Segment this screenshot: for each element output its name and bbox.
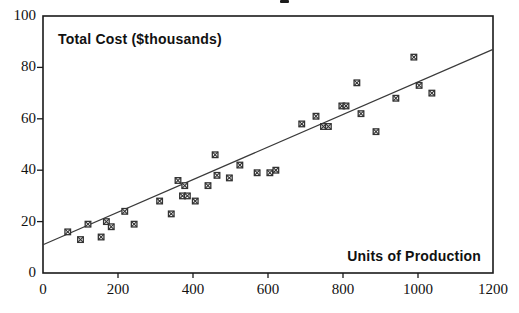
y-axis-tick-label: 100 bbox=[0, 8, 36, 23]
data-point-marker bbox=[267, 170, 273, 176]
data-point-marker bbox=[65, 229, 71, 235]
data-point-marker bbox=[393, 95, 399, 101]
data-point-marker bbox=[254, 170, 260, 176]
data-point-marker bbox=[192, 198, 198, 204]
data-point-marker bbox=[212, 152, 218, 158]
data-point-marker bbox=[108, 224, 114, 230]
y-axis-title: Total Cost ($thousands) bbox=[58, 31, 222, 47]
data-point-marker bbox=[122, 209, 128, 215]
data-point-marker bbox=[205, 183, 211, 189]
data-point-marker bbox=[175, 178, 181, 184]
data-point-marker bbox=[411, 54, 417, 60]
data-point-marker bbox=[185, 193, 191, 199]
data-point-marker bbox=[168, 211, 174, 217]
y-axis-tick-label: 60 bbox=[0, 111, 36, 126]
data-point-marker bbox=[85, 221, 91, 227]
data-point-marker bbox=[313, 113, 319, 119]
data-point-marker bbox=[429, 90, 435, 96]
data-point-marker bbox=[98, 234, 104, 240]
x-axis-tick-label: 0 bbox=[21, 282, 65, 297]
data-point-marker bbox=[373, 129, 379, 135]
data-point-marker bbox=[131, 221, 137, 227]
data-point-marker bbox=[416, 83, 422, 89]
y-axis-tick-label: 40 bbox=[0, 162, 36, 177]
x-axis-tick-label: 800 bbox=[321, 282, 365, 297]
x-axis-tick-label: 1200 bbox=[471, 282, 515, 297]
data-point-marker bbox=[326, 124, 332, 130]
x-axis-tick-label: 200 bbox=[96, 282, 140, 297]
data-point-marker bbox=[182, 183, 188, 189]
regression-line bbox=[43, 49, 493, 244]
data-point-marker bbox=[354, 80, 360, 86]
data-point-marker bbox=[237, 162, 243, 168]
data-point-marker bbox=[157, 198, 163, 204]
data-point-marker bbox=[343, 103, 349, 109]
data-point-marker bbox=[358, 111, 364, 117]
data-point-marker bbox=[227, 175, 233, 181]
data-point-marker bbox=[273, 167, 279, 173]
x-axis-tick-label: 1000 bbox=[396, 282, 440, 297]
y-axis-tick-label: 20 bbox=[0, 214, 36, 229]
scattergraph-figure: Total Cost ($thousands) Units of Product… bbox=[0, 0, 519, 313]
y-axis-tick-label: 0 bbox=[0, 265, 36, 280]
data-point-marker bbox=[78, 237, 84, 243]
data-point-marker bbox=[214, 173, 220, 179]
x-axis-tick-label: 400 bbox=[171, 282, 215, 297]
x-axis-title: Units of Production bbox=[347, 248, 481, 264]
plot-border bbox=[43, 16, 493, 273]
y-axis-tick-label: 80 bbox=[0, 59, 36, 74]
x-axis-tick-label: 600 bbox=[246, 282, 290, 297]
data-point-marker bbox=[299, 121, 305, 127]
